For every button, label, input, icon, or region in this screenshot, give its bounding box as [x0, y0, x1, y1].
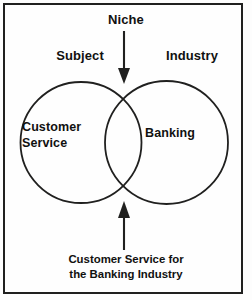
left-set-label: Customer Service	[22, 119, 112, 151]
caption-arrow-up-icon	[118, 201, 130, 250]
left-set-label-line1: Customer	[22, 120, 81, 134]
caption-line-2: the Banking Industry	[6, 267, 246, 282]
right-set-circle	[105, 81, 228, 204]
caption-line-1: Customer Service for	[6, 252, 246, 267]
niche-label: Niche	[0, 12, 252, 28]
figure-caption: Customer Service for the Banking Industr…	[6, 252, 246, 282]
right-set-label: Banking	[145, 126, 225, 141]
left-set-label-line2: Service	[22, 136, 67, 150]
industry-label: Industry	[112, 48, 252, 64]
venn-diagram-figure: Niche Subject Industry Customer Service …	[0, 0, 252, 300]
